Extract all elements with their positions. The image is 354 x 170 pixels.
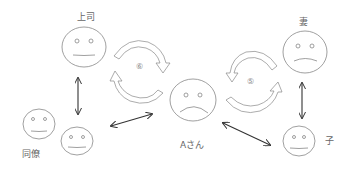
child-face-icon — [283, 126, 315, 156]
a-san-label: Aさん — [180, 141, 204, 150]
child-label: 子 — [325, 137, 334, 146]
a-san-face-icon — [170, 79, 216, 121]
boss-face-icon — [62, 27, 106, 67]
coworkers-label: 同僚 — [22, 150, 40, 159]
double-arrow-coworker-a-san-icon — [111, 114, 152, 126]
wife-face-icon — [283, 31, 327, 73]
cycle-arrow-boss-icon — [110, 41, 170, 104]
coworker-face-icon — [23, 109, 55, 139]
cycle-wife-number: ⑤ — [247, 78, 254, 86]
wife-label: 妻 — [299, 18, 308, 27]
coworker-face-icon — [61, 127, 93, 155]
double-arrow-a-san-child-icon — [223, 123, 270, 145]
cycle-boss-number: ⑥ — [136, 63, 143, 71]
boss-label: 上司 — [77, 13, 95, 22]
